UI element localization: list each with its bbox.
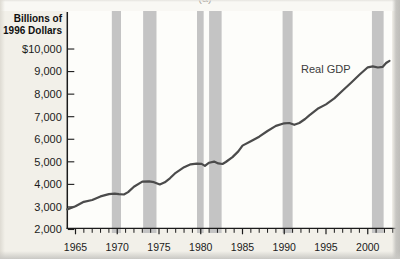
page-edge-bottom [0, 251, 400, 259]
page-edge-right [392, 0, 400, 259]
y-tick-label: 5,000 [34, 156, 62, 168]
y-tick-label: $10,000 [22, 43, 62, 55]
recession-band [372, 11, 384, 233]
y-axis-title-line1: Billions of [0, 13, 62, 25]
y-axis-title: Billions of 1996 Dollars [0, 13, 62, 36]
recession-band [112, 11, 121, 233]
y-axis-title-line2: 1996 Dollars [0, 25, 62, 37]
series-label-real-gdp: Real GDP [301, 63, 351, 75]
y-tick-label: 2,000 [34, 223, 62, 235]
y-tick-label: 3,000 [34, 201, 62, 213]
real-gdp-line-chart: $10,0009,0008,0007,0006,0005,0004,0003,0… [0, 0, 400, 259]
recession-band [197, 11, 204, 233]
recession-band [143, 11, 156, 233]
y-tick-label: 6,000 [34, 133, 62, 145]
page-edge-top [0, 0, 400, 2]
y-tick-label: 8,000 [34, 88, 62, 100]
recession-band [283, 11, 293, 233]
figure-canvas: (a) $10,0009,0008,0007,0006,0005,0004,00… [0, 0, 400, 259]
recession-band [209, 11, 222, 233]
y-tick-label: 4,000 [34, 178, 62, 190]
page-edge-left [0, 0, 5, 259]
y-tick-label: 7,000 [34, 111, 62, 123]
y-tick-label: 9,000 [34, 65, 62, 77]
